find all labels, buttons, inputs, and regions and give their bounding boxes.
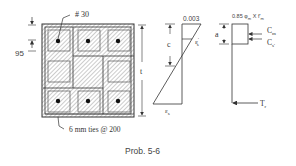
ties-label: 6 mm ties @ 200 <box>69 125 121 134</box>
neutral-axis-label: c <box>167 40 171 49</box>
stress-block <box>232 24 248 44</box>
top-strain-label: 0.003 <box>183 15 200 22</box>
ties-callout: 6 mm ties @ 200 <box>58 117 121 134</box>
rebar-dot <box>116 99 120 103</box>
rebar-dot <box>86 39 90 43</box>
column-cross-section <box>42 24 134 117</box>
strain-profile <box>153 24 201 104</box>
bar-size-label: # 30 <box>75 10 89 19</box>
stress-block-label: 0.85 φm X f'm <box>232 13 264 21</box>
concrete-force-label: Cm <box>267 26 276 36</box>
tension-steel-strain-label: εs <box>165 107 170 116</box>
rebar-dot <box>56 39 60 43</box>
rebar-dot <box>116 39 120 43</box>
comp-steel-strain-label: ε's <box>195 37 199 47</box>
cover-dimension: 95 <box>15 17 36 58</box>
rebar-dot <box>56 99 60 103</box>
depth-dimension: t <box>138 25 146 116</box>
block-depth-label: a <box>215 30 219 39</box>
tension-force-label: Tr <box>260 99 267 109</box>
steel-comp-force-label: Cs' <box>267 38 275 48</box>
figure-caption: Prob. 5-6 <box>125 146 160 156</box>
stress-diagram: 0.85 φm X f'm a Cm Cs' Tr <box>215 13 276 109</box>
figure-canvas: # 30 95 t 6 mm ties @ 200 0.003 c <box>0 0 296 166</box>
rebar-dot <box>86 99 90 103</box>
depth-label: t <box>140 67 143 76</box>
strain-diagram: 0.003 c ε's εs <box>153 15 201 116</box>
cover-dimension-label: 95 <box>15 49 24 58</box>
